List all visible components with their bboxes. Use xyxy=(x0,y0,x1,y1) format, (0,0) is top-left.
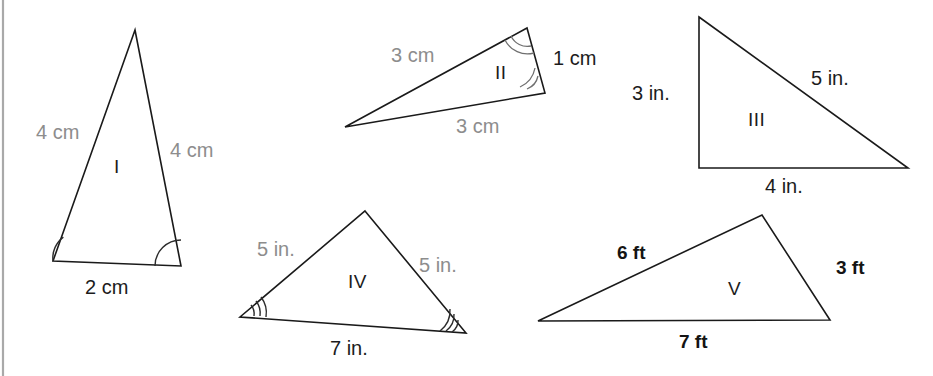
triangle-5-label-right: 3 ft xyxy=(836,258,865,277)
triangle-2-roman-numeral: II xyxy=(495,63,507,82)
triangle-2-angle-arc-bottom xyxy=(520,68,538,89)
triangle-1-label-base: 2 cm xyxy=(85,277,128,297)
triangle-5-label-base: 7 ft xyxy=(679,332,708,351)
triangle-1-label-right: 4 cm xyxy=(170,140,213,160)
triangle-2-label-upper: 3 cm xyxy=(391,45,434,65)
triangle-4-label-right: 5 in. xyxy=(419,255,457,275)
triangle-2-label-lower: 3 cm xyxy=(456,116,499,136)
triangles-figure: 4 cm 4 cm 2 cm I 3 cm 1 cm 3 cm II 3 in.… xyxy=(0,0,933,376)
triangle-3-roman-numeral: III xyxy=(748,110,765,129)
triangle-1-roman-numeral: I xyxy=(114,157,120,176)
triangle-2-shape xyxy=(345,28,545,127)
triangle-2-label-right: 1 cm xyxy=(553,48,596,68)
triangle-2-outline xyxy=(345,28,545,127)
triangle-5-label-upper: 6 ft xyxy=(617,243,646,262)
triangle-3-label-hypotenuse: 5 in. xyxy=(811,68,849,88)
triangle-4-roman-numeral: IV xyxy=(348,272,367,291)
triangle-5-roman-numeral: V xyxy=(728,279,741,298)
triangle-5-outline xyxy=(538,215,830,321)
triangle-4-label-left: 5 in. xyxy=(257,239,295,259)
triangle-1-label-left: 4 cm xyxy=(36,122,79,142)
triangle-3-label-base: 4 in. xyxy=(765,176,803,196)
triangle-3-outline xyxy=(699,17,908,168)
triangle-4-angle-arc-left xyxy=(251,297,266,317)
triangle-1-outline xyxy=(53,30,181,266)
triangle-3-shape xyxy=(699,17,908,168)
triangle-1-shape xyxy=(51,30,181,266)
triangle-4-label-base: 7 in. xyxy=(330,338,368,358)
triangle-3-label-left: 3 in. xyxy=(632,83,670,103)
triangle-5-shape xyxy=(538,215,830,321)
